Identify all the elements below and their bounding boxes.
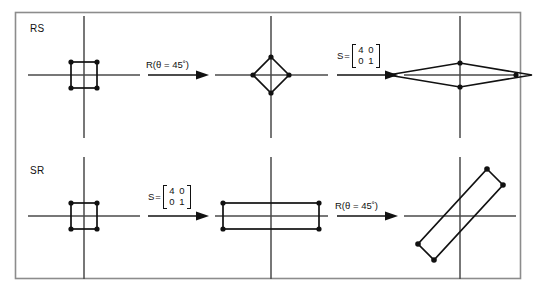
operator-label-rotation-top: R(θ = 45˚) (146, 60, 189, 70)
matrix-cell: 0 (169, 197, 175, 208)
matrix-body-bottom: 4 0 0 1 (166, 185, 188, 209)
matrix-equals-bottom: = (155, 191, 161, 202)
matrix-cell: 1 (179, 197, 185, 208)
operator-label-scale-top: S = 4 0 0 1 (337, 44, 380, 68)
operator-label-rotation-bottom: R(θ = 45˚) (335, 201, 378, 211)
row-label-rs: RS (30, 24, 45, 34)
matrix-row: 0 1 (358, 56, 374, 67)
matrix-row: 0 1 (169, 197, 185, 208)
operator-label-scale-bottom: S = 4 0 0 1 (148, 185, 191, 209)
matrix-equals-top: = (344, 50, 350, 61)
row-label-sr: SR (30, 166, 45, 176)
figure-canvas (0, 0, 535, 291)
matrix-symbol-bottom: S (148, 191, 154, 202)
matrix-cell: 0 (358, 56, 364, 67)
matrix-bracket-bottom: 4 0 0 1 (163, 185, 191, 209)
matrix-symbol-top: S (337, 50, 343, 61)
transformation-order-figure: RS SR R(θ = 45˚) S = 4 0 0 1 S = 4 (0, 0, 535, 291)
matrix-body-top: 4 0 0 1 (355, 44, 377, 68)
figure-border (16, 13, 521, 279)
matrix-bracket-top: 4 0 0 1 (352, 44, 380, 68)
matrix-cell: 1 (368, 56, 374, 67)
